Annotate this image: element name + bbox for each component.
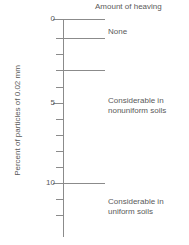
zone-label-uniform: Considerable in uniform soils — [108, 197, 164, 217]
y-tick-minor-12 — [56, 215, 63, 216]
zone-label-nonuniform: Considerable in nonuniform soils — [108, 96, 166, 116]
y-tick-minor-3 — [56, 70, 63, 71]
chart-title: Amount of heaving — [95, 2, 162, 12]
zone-label-nonuniform-line2: nonuniform soils — [108, 106, 166, 116]
y-tick-label-10: 10 — [41, 178, 55, 187]
zone-label-none: None — [108, 27, 127, 37]
zone-divider-uniform-top — [63, 183, 105, 184]
zone-label-uniform-line1: Considerable in — [108, 197, 164, 207]
y-axis-label: Percent of particles of 0.02 mm — [13, 41, 22, 201]
y-tick-minor-11 — [56, 199, 63, 200]
y-tick-label-0: 0 — [41, 14, 55, 23]
heaving-chart: Amount of heaving Percent of particles o… — [0, 0, 189, 245]
zone-label-nonuniform-line1: Considerable in — [108, 96, 166, 106]
zone-divider-nonuniform-top — [63, 70, 105, 71]
zone-label-uniform-line2: uniform soils — [108, 207, 164, 217]
y-tick-minor-9 — [56, 167, 63, 168]
y-tick-minor-2 — [56, 54, 63, 55]
y-tick-minor-1 — [56, 38, 63, 39]
y-tick-minor-4 — [56, 87, 63, 88]
zone-divider-top — [63, 19, 105, 20]
y-tick-minor-6 — [56, 119, 63, 120]
y-tick-minor-8 — [56, 151, 63, 152]
y-tick-minor-7 — [56, 135, 63, 136]
y-axis-line — [63, 19, 64, 237]
y-tick-label-5: 5 — [41, 98, 55, 107]
zone-divider-none-bottom — [63, 38, 105, 39]
